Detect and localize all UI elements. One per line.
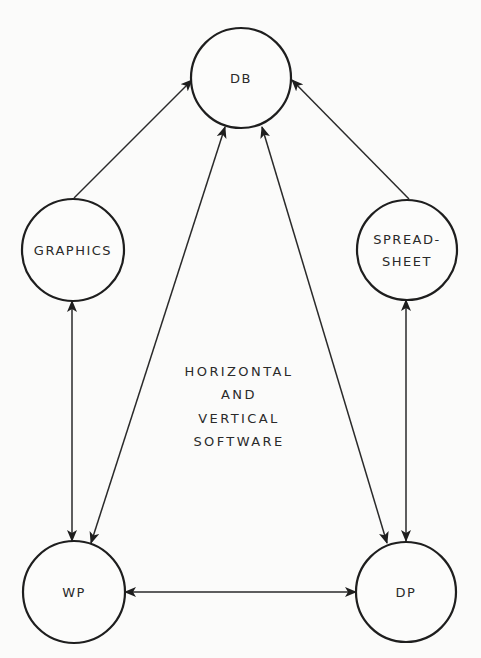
center-label-line: AND: [221, 387, 257, 402]
edges-layer: [72, 80, 409, 592]
node-dp: DP: [356, 542, 456, 642]
node-spreadsheet-circle: [357, 200, 457, 300]
node-db-label: DB: [230, 71, 252, 86]
center-label: HORIZONTALANDVERTICALSOFTWARE: [185, 364, 294, 449]
node-spreadsheet: SPREAD-SHEET: [357, 200, 457, 300]
center-label-line: SOFTWARE: [193, 434, 284, 449]
node-graphics: GRAPHICS: [22, 199, 124, 301]
edge-graphics-db-arrow: [74, 80, 192, 198]
edge-db-wp-arrow: [91, 127, 225, 543]
nodes-layer: DBGRAPHICSSPREAD-SHEETWPDP: [22, 28, 457, 643]
node-wp-label: WP: [62, 585, 86, 600]
node-spreadsheet-label: SPREAD-: [373, 232, 440, 247]
node-wp: WP: [23, 541, 125, 643]
node-graphics-label: GRAPHICS: [34, 243, 112, 258]
center-label-line: VERTICAL: [198, 411, 279, 426]
node-db: DB: [191, 28, 291, 128]
edge-db-dp-arrow: [262, 127, 387, 543]
node-spreadsheet-label: SHEET: [382, 254, 432, 269]
software-diagram: DBGRAPHICSSPREAD-SHEETWPDP HORIZONTALAND…: [0, 0, 481, 658]
center-label-line: HORIZONTAL: [185, 364, 294, 379]
node-dp-label: DP: [396, 585, 417, 600]
edge-spreadsheet-db-arrow: [292, 80, 409, 199]
